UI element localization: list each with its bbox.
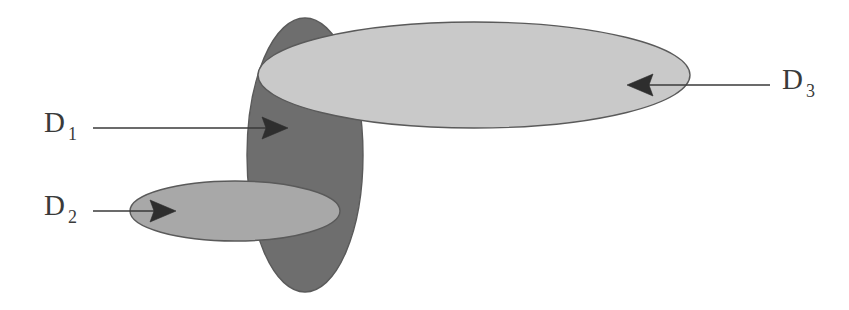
label-d3-subscript: 3: [806, 81, 815, 101]
region-d3-ellipse[interactable]: [258, 22, 690, 128]
domain-diagram-svg: D 1 D 2 D 3: [0, 0, 849, 310]
label-d1-base: D: [44, 106, 65, 138]
label-d1-subscript: 1: [68, 124, 77, 144]
label-d2-base: D: [44, 189, 65, 221]
diagram-canvas: D 1 D 2 D 3: [0, 0, 849, 310]
label-d3-base: D: [782, 63, 803, 95]
label-d2-subscript: 2: [68, 207, 77, 227]
